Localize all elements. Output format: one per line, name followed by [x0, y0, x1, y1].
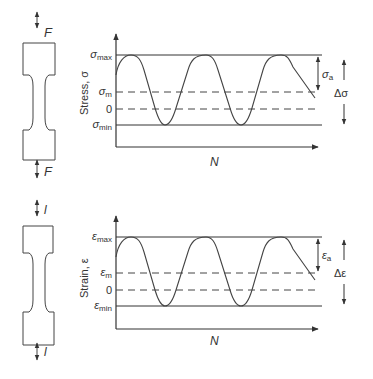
- label-zero: 0: [106, 284, 112, 296]
- label-min: σmin: [92, 118, 112, 132]
- stress-panel: F F Stress, σ N σmax σm 0 σmin σa Δσ: [23, 12, 348, 179]
- dogbone-specimen-icon: [23, 43, 55, 160]
- y-axis-label: Strain, ε: [78, 258, 90, 298]
- label-max: σmax: [90, 48, 112, 62]
- x-axis-label: N: [210, 155, 219, 169]
- label-max: εmax: [92, 230, 112, 244]
- load-label-bottom: l: [44, 345, 47, 359]
- label-zero: 0: [106, 103, 112, 115]
- fatigue-cycle-diagram: F F Stress, σ N σmax σm 0 σmin σa Δσ: [0, 0, 373, 379]
- amplitude-label: εa: [322, 249, 332, 263]
- y-axis-label: Stress, σ: [78, 71, 90, 115]
- load-label-bottom: F: [44, 164, 53, 179]
- label-min: εmin: [94, 299, 112, 313]
- label-mean: σm: [99, 85, 113, 99]
- specimen-strain: [23, 200, 54, 360]
- x-axis-label: N: [210, 334, 219, 348]
- stress-cycle-curve: [116, 55, 315, 125]
- load-label-top: F: [44, 25, 53, 40]
- amplitude-label: σa: [322, 68, 334, 82]
- strain-panel: l l Strain, ε N εmax εm 0 εmin εa Δε: [23, 200, 346, 360]
- label-mean: εm: [100, 266, 112, 280]
- strain-cycle-curve: [116, 237, 315, 306]
- load-label-top: l: [44, 203, 47, 217]
- range-label: Δε: [334, 267, 346, 279]
- range-label: Δσ: [334, 87, 348, 99]
- dogbone-specimen-icon: [23, 226, 54, 345]
